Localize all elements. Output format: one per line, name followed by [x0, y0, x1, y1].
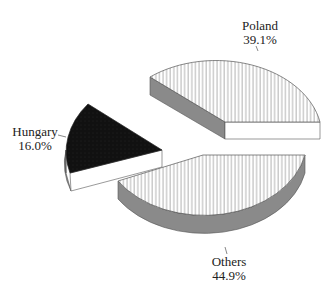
poland-top [150, 61, 320, 122]
poland-side-front [225, 122, 320, 139]
label-others-pct: 44.9% [205, 269, 253, 283]
label-poland: Poland 39.1% [236, 19, 284, 47]
label-others-name: Others [205, 255, 253, 269]
label-poland-pct: 39.1% [236, 33, 284, 47]
label-hungary: Hungary 16.0% [10, 125, 60, 153]
label-hungary-name: Hungary [10, 125, 60, 139]
slice-poland [150, 46, 320, 139]
others-leader-line [225, 247, 227, 254]
label-others: Others 44.9% [205, 255, 253, 283]
label-hungary-pct: 16.0% [10, 139, 60, 153]
label-poland-name: Poland [236, 19, 284, 33]
